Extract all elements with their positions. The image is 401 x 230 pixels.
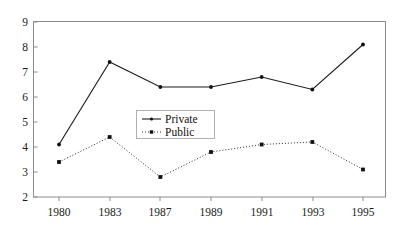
y-axis-tick-labels: 9 8 7 6 5 4 3 2 [22,16,28,203]
x-tick-label: 1989 [200,206,223,218]
y-tick-label: 2 [22,191,28,203]
x-tick-label: 1991 [251,206,274,218]
data-point-private-1991 [260,75,264,79]
chart-canvas: 9 8 7 6 5 4 3 2 1980 1983 1987 1989 1991 [0,0,401,230]
legend-label-public: Public [165,126,194,138]
x-tick-label: 1983 [99,206,122,218]
data-point-private-1983 [108,60,112,64]
x-tick-label: 1995 [352,206,375,218]
chart-legend: Private Public [137,111,215,139]
y-tick-label: 4 [22,141,28,153]
y-tick-label: 9 [22,16,28,28]
x-axis-tick-labels: 1980 1983 1987 1989 1991 1993 1995 [48,206,375,218]
x-tick-label: 1987 [149,206,172,218]
data-point-public-1991 [260,143,264,147]
data-point-public-1995 [361,168,365,172]
data-point-private-1980 [57,143,61,147]
plot-frame [34,22,386,198]
legend-marker-dot [150,117,153,120]
y-axis-ticks [34,22,38,197]
y-tick-label: 7 [22,66,28,78]
series-line-public [59,137,363,177]
data-point-public-1987 [158,175,162,179]
data-point-public-1993 [310,140,314,144]
y-tick-label: 6 [22,91,28,103]
y-tick-label: 8 [22,41,28,53]
line-chart: 9 8 7 6 5 4 3 2 1980 1983 1987 1989 1991 [0,0,401,230]
data-point-private-1993 [310,88,314,92]
data-point-private-1989 [209,85,213,89]
x-tick-label: 1980 [48,206,71,218]
data-point-private-1995 [361,43,365,47]
legend-marker-square [150,130,153,133]
x-axis-ticks [59,197,363,201]
data-point-public-1983 [108,135,112,139]
data-point-public-1980 [57,160,61,164]
data-point-private-1987 [158,85,162,89]
y-tick-label: 5 [22,116,28,128]
legend-label-private: Private [165,113,198,125]
y-tick-label: 3 [22,166,28,178]
series-public [57,135,365,179]
data-point-public-1989 [209,150,213,154]
x-tick-label: 1993 [302,206,325,218]
